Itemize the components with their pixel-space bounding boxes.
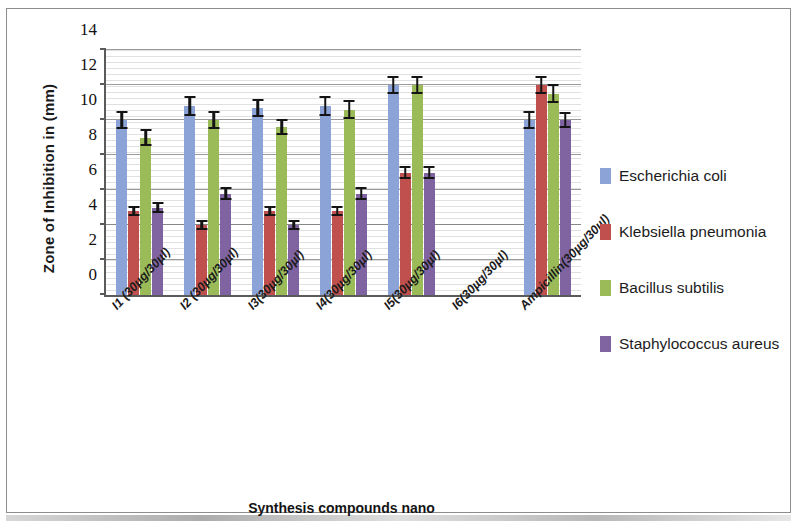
error-bar bbox=[400, 166, 411, 178]
error-bar bbox=[208, 111, 219, 129]
error-bar bbox=[524, 111, 535, 129]
bar-slot bbox=[264, 50, 275, 295]
legend-label: Bacillus subtilis bbox=[619, 279, 724, 297]
y-tick-label: 8 bbox=[89, 125, 98, 145]
legend-label: Klebsiella pneumonia bbox=[619, 223, 766, 241]
error-bar bbox=[276, 119, 287, 135]
error-bar bbox=[388, 76, 399, 94]
plot-area: 02468101214 bbox=[104, 50, 581, 297]
y-tick-label: 2 bbox=[89, 230, 98, 250]
error-bar bbox=[252, 99, 263, 117]
error-bar bbox=[220, 187, 231, 199]
bar-slot bbox=[128, 50, 139, 295]
legend-item[interactable]: Staphylococcus aureus bbox=[600, 316, 790, 372]
bar[interactable] bbox=[184, 106, 195, 295]
bar-slot bbox=[400, 50, 411, 295]
bar-slot bbox=[388, 50, 399, 295]
error-bar bbox=[332, 206, 343, 217]
bar[interactable] bbox=[424, 173, 435, 296]
bar[interactable] bbox=[524, 120, 535, 295]
bar[interactable] bbox=[356, 194, 367, 296]
error-bar bbox=[320, 96, 331, 115]
legend-swatch-icon bbox=[600, 280, 611, 296]
bar-slot bbox=[536, 50, 547, 295]
bar[interactable] bbox=[116, 120, 127, 295]
bar-slot bbox=[456, 50, 467, 295]
y-tick-label: 0 bbox=[89, 265, 98, 285]
y-tick-label: 10 bbox=[80, 90, 97, 110]
legend-item[interactable]: Escherichia coli bbox=[600, 148, 790, 204]
chart-page: Zone of Inhibition in (mm) 02468101214 I… bbox=[0, 0, 797, 532]
error-bar bbox=[412, 76, 423, 94]
bar-slot bbox=[320, 50, 331, 295]
legend-swatch-icon bbox=[600, 336, 611, 352]
error-bar bbox=[344, 100, 355, 119]
bar-slot bbox=[116, 50, 127, 295]
y-axis-title: Zone of Inhibition in (mm) bbox=[40, 54, 57, 304]
error-bar bbox=[356, 187, 367, 199]
legend-label: Escherichia coli bbox=[619, 167, 727, 185]
error-bar bbox=[560, 112, 571, 128]
bar-slot bbox=[524, 50, 535, 295]
y-tick-label: 6 bbox=[89, 160, 98, 180]
error-bar bbox=[548, 84, 559, 103]
bar[interactable] bbox=[320, 106, 331, 295]
legend-swatch-icon bbox=[600, 168, 611, 184]
y-tick-label: 4 bbox=[89, 195, 98, 215]
bar[interactable] bbox=[388, 85, 399, 295]
legend: Escherichia coliKlebsiella pneumoniaBaci… bbox=[600, 148, 790, 372]
bar-slot bbox=[252, 50, 263, 295]
error-bar bbox=[288, 220, 299, 231]
error-bar bbox=[140, 129, 151, 147]
error-bar bbox=[536, 76, 547, 94]
bar[interactable] bbox=[252, 108, 263, 295]
error-bar bbox=[128, 206, 139, 217]
bar[interactable] bbox=[220, 194, 231, 296]
legend-label: Staphylococcus aureus bbox=[619, 335, 779, 353]
error-bar bbox=[184, 96, 195, 115]
bar-slot bbox=[196, 50, 207, 295]
y-tick-label: 14 bbox=[80, 20, 97, 40]
x-axis-title: Synthesis compounds nano bbox=[104, 500, 579, 516]
bar-slot bbox=[468, 50, 479, 295]
error-bar bbox=[196, 220, 207, 231]
legend-item[interactable]: Bacillus subtilis bbox=[600, 260, 790, 316]
error-bar bbox=[116, 111, 127, 129]
bar-slot bbox=[184, 50, 195, 295]
legend-item[interactable]: Klebsiella pneumonia bbox=[600, 204, 790, 260]
bar[interactable] bbox=[536, 85, 547, 295]
legend-swatch-icon bbox=[600, 224, 611, 240]
y-tick-label: 12 bbox=[80, 55, 97, 75]
error-bar bbox=[264, 206, 275, 217]
error-bar bbox=[152, 202, 163, 213]
error-bar bbox=[424, 166, 435, 178]
bar-slot bbox=[332, 50, 343, 295]
